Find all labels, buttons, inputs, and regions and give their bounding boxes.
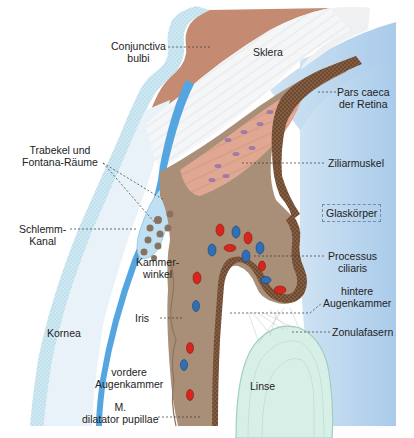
- label-line: M.: [82, 401, 158, 413]
- label-line: vordere: [95, 366, 163, 378]
- label-m-dilatator-pupillae: M. dilatator pupillae: [82, 401, 158, 425]
- label-line: Pars caeca: [337, 86, 390, 98]
- label-line: ciliaris: [328, 262, 377, 274]
- label-line: Augenkammer: [95, 378, 163, 390]
- label-linse: Linse: [250, 380, 275, 392]
- label-trabekel-fontana: Trabekel und Fontana-Räume: [22, 144, 98, 168]
- label-line: Kammer-: [136, 256, 179, 268]
- label-ziliarmuskel: Ziliarmuskel: [328, 157, 384, 169]
- label-line: der Retina: [337, 98, 390, 110]
- label-line: Trabekel und: [22, 144, 98, 156]
- label-kammerwinkel: Kammer- winkel: [136, 256, 179, 280]
- label-zonulafasern: Zonulafasern: [332, 326, 393, 338]
- label-line: Augenkammer: [323, 297, 391, 309]
- label-glaskoerper: Glaskörper: [322, 204, 381, 222]
- label-line: Fontana-Räume: [22, 156, 98, 168]
- label-line: Schlemm-: [19, 223, 66, 235]
- eye-anterior-segment-diagram: Conjunctiva bulbi Sklera Pars caeca der …: [0, 0, 414, 438]
- label-processus-ciliaris: Processus ciliaris: [328, 250, 377, 274]
- label-line: winkel: [136, 268, 179, 280]
- label-line: dilatator pupillae: [82, 413, 158, 425]
- label-line: Kanal: [19, 235, 66, 247]
- label-schlemm-kanal: Schlemm- Kanal: [19, 223, 66, 247]
- label-hintere-augenkammer: hintere Augenkammer: [323, 285, 391, 309]
- label-sklera: Sklera: [253, 46, 283, 58]
- label-line: Conjunctiva: [111, 40, 166, 52]
- label-line: bulbi: [111, 52, 166, 64]
- label-kornea: Kornea: [47, 327, 81, 339]
- label-vordere-augenkammer: vordere Augenkammer: [95, 366, 163, 390]
- label-pars-caeca-retinae: Pars caeca der Retina: [337, 86, 390, 110]
- label-line: hintere: [323, 285, 391, 297]
- label-line: Processus: [328, 250, 377, 262]
- label-conjunctiva-bulbi: Conjunctiva bulbi: [111, 40, 166, 64]
- label-iris: Iris: [135, 312, 149, 324]
